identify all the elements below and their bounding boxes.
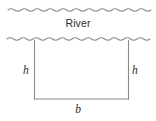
left-height-label: h — [23, 64, 29, 76]
river-fence-diagram: River h h b — [0, 0, 156, 121]
right-height-label: h — [132, 64, 138, 76]
base-label: b — [0, 103, 156, 115]
river-label: River — [0, 17, 156, 29]
upper-river-wave-line — [8, 9, 151, 12]
lower-river-wave-line — [7, 38, 150, 41]
